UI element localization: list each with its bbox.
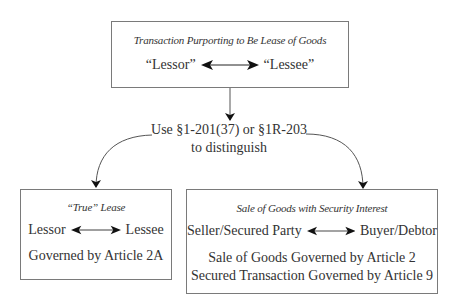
distinguish-text-line2: to distinguish [0, 140, 458, 156]
sale-security-title: Sale of Goods with Security Interest [187, 202, 437, 214]
seller-buyer-row: Seller/Secured Party Buyer/Debtor [187, 223, 437, 239]
lessor-label: Lessor [28, 222, 65, 238]
governed-article-9: Secured Transaction Governed by Article … [187, 268, 437, 284]
distinguish-text-line1: Use §1-201(37) or §1R-203 [0, 122, 458, 138]
transaction-title: Transaction Purporting to Be Lease of Go… [112, 34, 348, 46]
governed-article-2: Sale of Goods Governed by Article 2 [187, 250, 437, 266]
seller-label: Seller/Secured Party [187, 223, 302, 239]
lessor-lessee-row: “Lessor” “Lessee” [112, 57, 348, 73]
governed-article-2a: Governed by Article 2A [21, 248, 171, 264]
lessor-label: “Lessor” [146, 57, 196, 73]
true-lease-parties-row: Lessor Lessee [21, 222, 171, 238]
buyer-label: Buyer/Debtor [360, 223, 437, 239]
lessee-label: Lessee [126, 222, 164, 238]
double-arrow-icon [71, 224, 121, 236]
lessee-label: “Lessee” [264, 57, 315, 73]
true-lease-title: “True” Lease [21, 201, 171, 213]
transaction-box: Transaction Purporting to Be Lease of Go… [111, 21, 349, 88]
double-arrow-icon [307, 225, 355, 237]
double-arrow-icon [201, 59, 259, 71]
true-lease-box: “True” Lease Lessor Lessee Governed by A… [20, 189, 172, 280]
sale-security-box: Sale of Goods with Security Interest Sel… [186, 189, 438, 294]
